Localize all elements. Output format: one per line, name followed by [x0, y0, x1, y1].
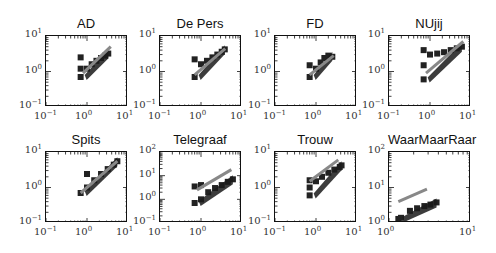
x-tick-label: 101	[116, 225, 133, 237]
y-tick-label: 100	[244, 63, 271, 75]
y-tick-label: 10−1	[129, 214, 156, 226]
y-tick-label: 100	[129, 63, 156, 75]
plot-area	[274, 35, 356, 106]
plot-svg	[389, 36, 470, 106]
x-tick-label: 101	[230, 225, 247, 237]
x-tick-label: 100	[304, 109, 321, 121]
y-tick-label: 10−1	[15, 98, 42, 110]
y-tick-label: 101	[129, 167, 156, 179]
data-points	[78, 50, 112, 80]
x-tick-label: 10−1	[263, 225, 286, 237]
panel-title: WaarMaarRaar	[388, 132, 470, 147]
plot-svg	[160, 152, 241, 222]
x-tick-label: 100	[189, 225, 206, 237]
x-tick-label: 100	[75, 109, 92, 121]
x-tick-label: 100	[377, 225, 394, 237]
x-tick-label: 101	[116, 109, 133, 121]
x-tick-label: 10−1	[34, 225, 57, 237]
y-tick-label: 10−1	[15, 214, 42, 226]
x-tick-label: 10−1	[34, 109, 57, 121]
data-points	[421, 43, 465, 83]
y-tick-label: 102	[358, 143, 385, 155]
plot-svg	[46, 36, 127, 106]
plot-svg	[46, 152, 127, 222]
panel-title: De Pers	[159, 16, 241, 31]
plot-svg	[275, 152, 356, 222]
y-tick-label: 10−1	[129, 98, 156, 110]
x-tick-label: 100	[189, 109, 206, 121]
data-points	[395, 198, 439, 222]
plot-svg	[389, 152, 470, 222]
fit-line	[398, 189, 427, 202]
x-tick-label: 101	[345, 109, 362, 121]
x-tick-label: 101	[459, 109, 476, 121]
y-tick-label: 10−1	[358, 98, 385, 110]
y-tick-label: 101	[129, 27, 156, 39]
panel-title: AD	[45, 16, 127, 31]
y-tick-label: 100	[15, 179, 42, 191]
y-tick-label: 101	[15, 27, 42, 39]
plot-area	[274, 151, 356, 222]
y-tick-label: 10−1	[244, 214, 271, 226]
plot-svg	[275, 36, 356, 106]
plot-area	[388, 35, 470, 106]
x-tick-label: 101	[345, 225, 362, 237]
plot-svg	[160, 36, 241, 106]
y-tick-label: 102	[129, 143, 156, 155]
panel-title: Spits	[45, 132, 127, 147]
x-tick-label: 101	[459, 225, 476, 237]
x-tick-label: 100	[75, 225, 92, 237]
plot-area	[45, 151, 127, 222]
y-tick-label: 100	[358, 214, 385, 226]
plot-area	[388, 151, 470, 222]
plot-area	[159, 151, 241, 222]
x-tick-label: 10−1	[377, 109, 400, 121]
y-tick-label: 101	[358, 27, 385, 39]
panel-title: NUjij	[388, 16, 470, 31]
panel-title: Trouw	[274, 132, 356, 147]
x-tick-label: 100	[304, 225, 321, 237]
x-tick-label: 10−1	[148, 225, 171, 237]
y-tick-label: 100	[358, 63, 385, 75]
plot-area	[45, 35, 127, 106]
y-tick-label: 100	[15, 63, 42, 75]
y-tick-label: 101	[15, 143, 42, 155]
y-tick-label: 100	[244, 179, 271, 191]
x-tick-label: 10−1	[148, 109, 171, 121]
y-tick-label: 101	[358, 179, 385, 191]
panel-title: FD	[274, 16, 356, 31]
plot-area	[159, 35, 241, 106]
x-tick-label: 100	[418, 109, 435, 121]
y-tick-label: 100	[129, 190, 156, 202]
x-tick-label: 101	[230, 109, 247, 121]
y-tick-label: 101	[244, 143, 271, 155]
panel-title: Telegraaf	[159, 132, 241, 147]
y-tick-label: 10−1	[244, 98, 271, 110]
fit-line	[81, 161, 118, 193]
y-tick-label: 101	[244, 27, 271, 39]
x-tick-label: 10−1	[263, 109, 286, 121]
